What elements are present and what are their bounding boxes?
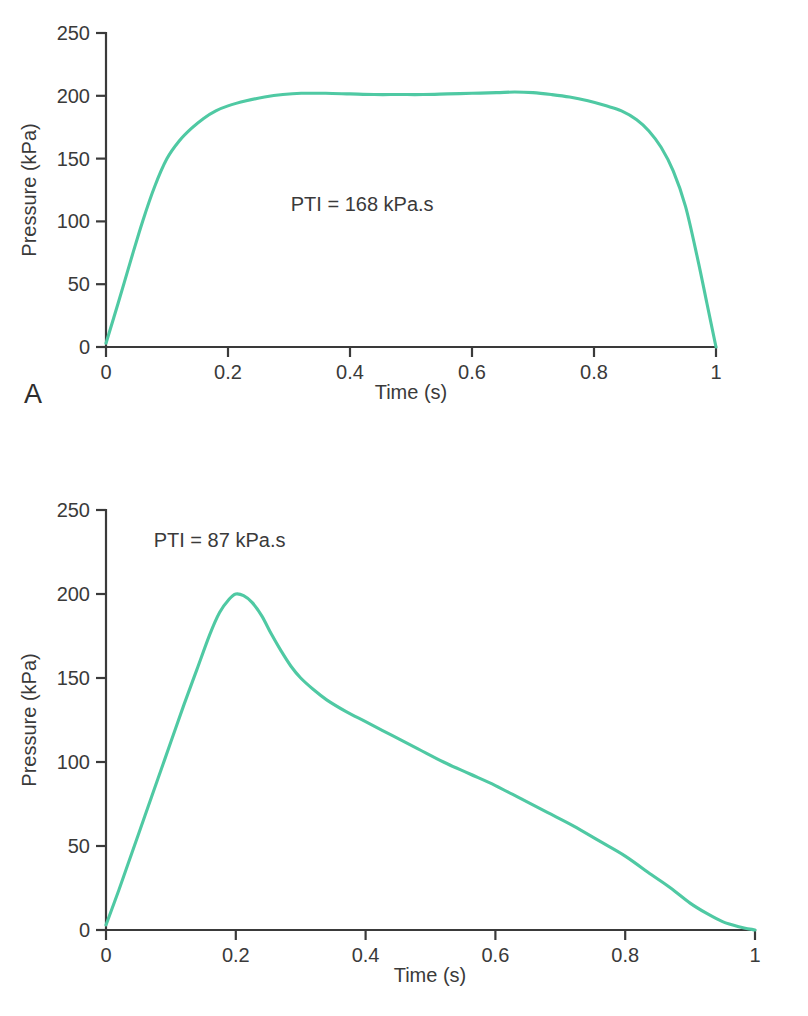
panel-b-x-axis-title: Time (s)	[394, 964, 467, 986]
panel-a-x-ticks	[106, 347, 716, 357]
y-tick-label: 0	[79, 919, 90, 941]
y-tick-label: 50	[68, 273, 90, 295]
panel-a-letter: A	[24, 381, 43, 408]
x-tick-label: 0.2	[222, 944, 250, 966]
panel-b-pti-annotation: PTI = 87 kPa.s	[154, 529, 286, 551]
panel-a-pressure-curve	[106, 92, 716, 347]
y-tick-label: 250	[57, 499, 90, 521]
y-tick-label: 250	[57, 22, 90, 44]
x-tick-label: 0.6	[458, 361, 486, 383]
panel-b: 050100150200250 00.20.40.60.81 Pressure …	[0, 478, 808, 1016]
y-tick-label: 200	[57, 583, 90, 605]
x-tick-label: 1	[710, 361, 721, 383]
panel-a-y-ticks	[96, 33, 106, 347]
x-tick-label: 0.8	[611, 944, 639, 966]
panel-a-y-tick-labels: 050100150200250	[57, 22, 90, 358]
panel-b-plot: 050100150200250 00.20.40.60.81 Pressure …	[0, 478, 808, 1016]
panel-b-x-tick-labels: 00.20.40.60.81	[100, 944, 760, 966]
x-tick-label: 0.6	[481, 944, 509, 966]
x-tick-label: 0.4	[336, 361, 364, 383]
panel-a-plot: 050100150200250 00.20.40.60.81 Pressure …	[0, 0, 808, 430]
x-tick-label: 0	[100, 361, 111, 383]
y-tick-label: 100	[57, 751, 90, 773]
panel-a-x-tick-labels: 00.20.40.60.81	[100, 361, 721, 383]
panel-a: 050100150200250 00.20.40.60.81 Pressure …	[0, 0, 808, 430]
panel-b-y-ticks	[96, 510, 106, 930]
panel-a-y-axis-title: Pressure (kPa)	[18, 123, 40, 256]
panel-b-x-ticks	[106, 930, 755, 940]
x-tick-label: 0.8	[580, 361, 608, 383]
panel-b-pressure-curve	[106, 594, 755, 930]
x-tick-label: 1	[749, 944, 760, 966]
figure-container: 050100150200250 00.20.40.60.81 Pressure …	[0, 0, 808, 1016]
y-tick-label: 0	[79, 336, 90, 358]
y-tick-label: 150	[57, 667, 90, 689]
y-tick-label: 50	[68, 835, 90, 857]
x-tick-label: 0	[100, 944, 111, 966]
y-tick-label: 200	[57, 85, 90, 107]
panel-b-y-axis-title: Pressure (kPa)	[18, 653, 40, 786]
panel-a-x-axis-title: Time (s)	[375, 381, 448, 403]
panel-b-y-tick-labels: 050100150200250	[57, 499, 90, 941]
x-tick-label: 0.4	[352, 944, 380, 966]
x-tick-label: 0.2	[214, 361, 242, 383]
y-tick-label: 150	[57, 148, 90, 170]
y-tick-label: 100	[57, 210, 90, 232]
panel-a-pti-annotation: PTI = 168 kPa.s	[291, 193, 434, 215]
